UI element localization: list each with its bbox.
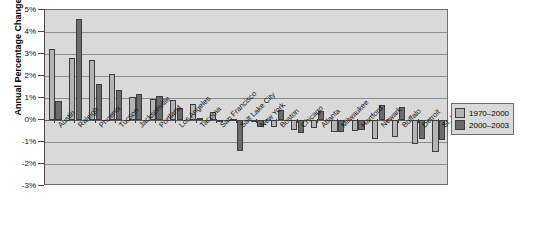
y-axis-tick-label: 2% bbox=[24, 71, 36, 80]
legend-item-1: 2000–2003 bbox=[455, 119, 509, 131]
y-axis-tick-label: 0% bbox=[24, 115, 36, 124]
x-axis-labels: AustinRaleighPhoenixTucsonJacksonvillePo… bbox=[44, 0, 448, 237]
y-axis-labels: 5%4%3%2%1%0%-1%-2%-3% bbox=[0, 0, 36, 237]
y-axis-tick-label: 4% bbox=[24, 27, 36, 36]
x-axis-tick-label: Chicago bbox=[299, 104, 325, 130]
legend-label: 1970–2000 bbox=[469, 109, 509, 118]
y-axis-tick-label: -2% bbox=[22, 159, 36, 168]
bar-chart: Annual Percentage Change 5%4%3%2%1%0%-1%… bbox=[0, 0, 536, 237]
legend-swatch-icon bbox=[455, 108, 465, 118]
x-axis-tick-label: Phoenix bbox=[97, 104, 123, 130]
legend-swatch-icon bbox=[455, 120, 465, 130]
y-axis-tick-label: -3% bbox=[22, 181, 36, 190]
x-axis-tick-label: Raleigh bbox=[76, 105, 100, 129]
y-axis-tick-label: 5% bbox=[24, 5, 36, 14]
y-axis-tick-label: 3% bbox=[24, 49, 36, 58]
legend-item-0: 1970–2000 bbox=[455, 107, 509, 119]
y-axis-tick-label: 1% bbox=[24, 93, 36, 102]
chart-legend: 1970–2000 2000–2003 bbox=[451, 103, 514, 135]
legend-label: 2000–2003 bbox=[469, 121, 509, 130]
y-axis-tick-label: -1% bbox=[22, 137, 36, 146]
